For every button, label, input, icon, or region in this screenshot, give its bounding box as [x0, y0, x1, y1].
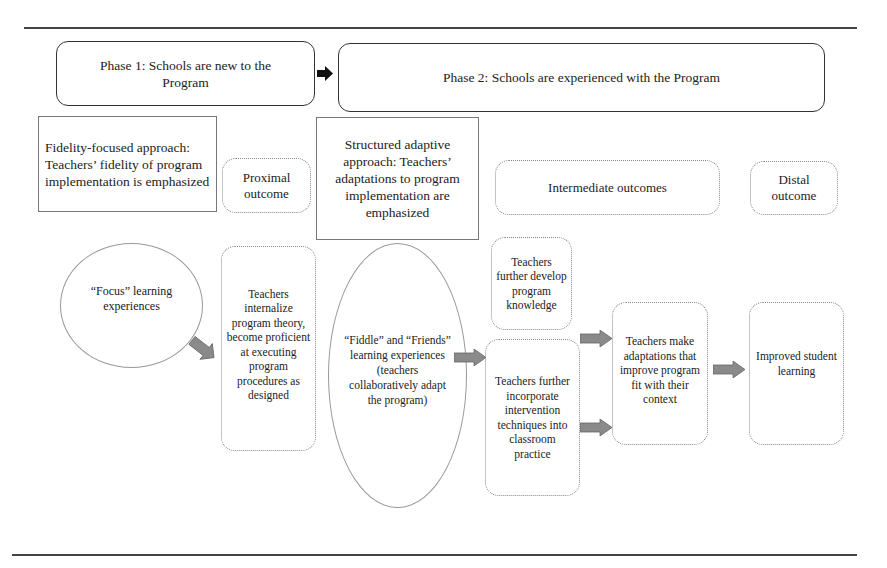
adaptive-approach-box: Structured adaptive approach: Teachers’ … — [316, 117, 479, 240]
fidelity-approach-label: Fidelity-focused approach: Teachers’ fid… — [45, 139, 210, 190]
phase-1-label: Phase 1: Schools are new to the Program — [87, 57, 284, 91]
internalize-theory-box: Teachers internalize program theory, bec… — [221, 246, 316, 451]
intermediate-outcomes-label: Intermediate outcomes — [548, 180, 667, 196]
distal-outcome-box: Distal outcome — [750, 161, 838, 215]
top-rule — [24, 27, 857, 29]
right-arrow-icon — [454, 349, 486, 366]
improved-learning-label: Improved student learning — [754, 349, 839, 378]
phase-arrow-icon — [317, 66, 333, 81]
develop-knowledge-label: Teachers further develop program knowled… — [496, 255, 567, 313]
focus-learning-label: “Focus” learning experiences — [81, 284, 182, 314]
phase-1-box: Phase 1: Schools are new to the Program — [56, 41, 315, 106]
fiddle-friends-ellipse: “Fiddle” and “Friends” learning experien… — [328, 243, 467, 508]
proximal-outcome-label: Proximal outcome — [227, 170, 306, 202]
right-arrow-icon — [580, 419, 612, 436]
internalize-theory-label: Teachers internalize program theory, bec… — [226, 287, 311, 403]
fiddle-friends-label: “Fiddle” and “Friends” learning experien… — [343, 333, 452, 408]
focus-learning-ellipse: “Focus” learning experiences — [60, 243, 203, 368]
phase-2-label: Phase 2: Schools are experienced with th… — [443, 69, 720, 86]
bottom-rule — [12, 554, 857, 556]
make-adaptations-box: Teachers make adaptations that improve p… — [612, 302, 708, 445]
incorporate-techniques-label: Teachers further incorporate interventio… — [490, 374, 575, 461]
phase-2-box: Phase 2: Schools are experienced with th… — [338, 43, 825, 112]
make-adaptations-label: Teachers make adaptations that improve p… — [617, 334, 703, 407]
right-arrow-icon — [713, 361, 745, 378]
intermediate-outcomes-box: Intermediate outcomes — [495, 160, 720, 215]
adaptive-approach-label: Structured adaptive approach: Teachers’ … — [323, 136, 472, 221]
distal-outcome-label: Distal outcome — [755, 172, 833, 204]
develop-knowledge-box: Teachers further develop program knowled… — [491, 237, 572, 330]
proximal-outcome-box: Proximal outcome — [222, 158, 311, 213]
fidelity-approach-box: Fidelity-focused approach: Teachers’ fid… — [38, 116, 217, 212]
diagonal-arrow-icon — [187, 330, 219, 368]
improved-learning-box: Improved student learning — [749, 302, 844, 445]
incorporate-techniques-box: Teachers further incorporate interventio… — [485, 339, 580, 496]
right-arrow-icon — [580, 330, 612, 347]
